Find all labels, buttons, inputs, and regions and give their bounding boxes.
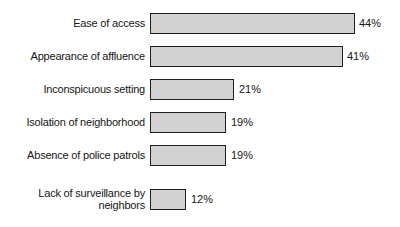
- bar-value-label: 21%: [239, 83, 261, 95]
- category-label: Lack of surveillance by neighbors: [0, 187, 145, 211]
- chart-row: Ease of access 44%: [0, 13, 400, 34]
- bar-value-label: 19%: [231, 116, 253, 128]
- bar: [150, 79, 234, 100]
- bar-track: [150, 112, 226, 133]
- bar-chart: Ease of access 44% Appearance of affluen…: [0, 0, 400, 227]
- bar-track: [150, 79, 234, 100]
- chart-row: Lack of surveillance by neighbors 12%: [0, 189, 400, 210]
- category-label: Absence of police patrols: [0, 149, 145, 161]
- bar: [150, 13, 355, 34]
- bar: [150, 189, 186, 210]
- category-label: Ease of access: [0, 17, 145, 29]
- category-label: Inconspicuous setting: [0, 83, 145, 95]
- bar-track: [150, 46, 343, 67]
- bar: [150, 46, 343, 67]
- category-label: Isolation of neighborhood: [0, 116, 145, 128]
- category-label: Appearance of affluence: [0, 50, 145, 62]
- bar-value-label: 44%: [359, 17, 381, 29]
- chart-row: Absence of police patrols 19%: [0, 145, 400, 166]
- chart-row: Appearance of affluence 41%: [0, 46, 400, 67]
- chart-row: Inconspicuous setting 21%: [0, 79, 400, 100]
- bar-track: [150, 13, 355, 34]
- bar-track: [150, 189, 186, 210]
- bar-track: [150, 145, 226, 166]
- chart-row: Isolation of neighborhood 19%: [0, 112, 400, 133]
- bar: [150, 112, 226, 133]
- bar-value-label: 19%: [231, 149, 253, 161]
- bar-value-label: 41%: [347, 50, 369, 62]
- bar: [150, 145, 226, 166]
- bar-value-label: 12%: [191, 193, 213, 205]
